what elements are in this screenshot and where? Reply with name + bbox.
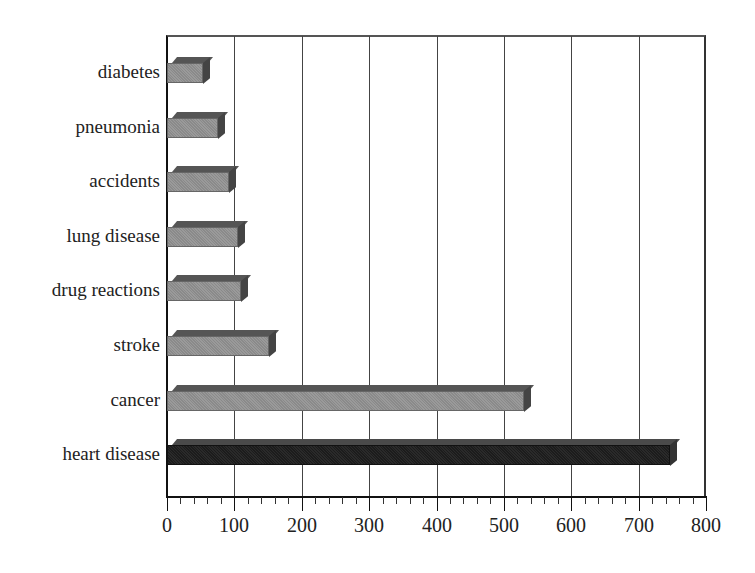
major-tick xyxy=(369,497,370,511)
bar-side-face xyxy=(229,166,236,193)
major-tick xyxy=(639,497,640,511)
minor-tick xyxy=(666,497,667,504)
bar-heart-disease xyxy=(167,439,678,465)
bar-side-face xyxy=(241,276,248,303)
x-tick-label: 300 xyxy=(339,514,399,537)
major-tick xyxy=(437,497,438,511)
bar-front-face xyxy=(167,63,203,83)
minor-tick xyxy=(356,497,357,504)
category-label: lung disease xyxy=(0,224,160,248)
minor-tick xyxy=(463,497,464,504)
x-tick-label: 0 xyxy=(137,514,197,537)
minor-tick xyxy=(544,497,545,504)
bar-side-face xyxy=(203,57,210,84)
minor-tick xyxy=(652,497,653,504)
bar-accidents xyxy=(167,166,237,192)
bar-pneumonia xyxy=(167,112,226,138)
minor-tick xyxy=(477,497,478,504)
category-label: drug reactions xyxy=(0,278,160,302)
minor-tick xyxy=(329,497,330,504)
category-label: cancer xyxy=(0,388,160,412)
bar-front-face xyxy=(167,227,238,247)
bar-front-face xyxy=(167,172,229,192)
x-tick-label: 400 xyxy=(407,514,467,537)
bar-front-face xyxy=(167,336,269,356)
bar-side-face xyxy=(238,221,245,248)
minor-tick xyxy=(396,497,397,504)
major-tick xyxy=(234,497,235,511)
x-tick-label: 600 xyxy=(541,514,601,537)
minor-tick xyxy=(315,497,316,504)
minor-tick xyxy=(598,497,599,504)
gridline xyxy=(234,36,235,497)
minor-tick xyxy=(679,497,680,504)
minor-tick xyxy=(423,497,424,504)
minor-tick xyxy=(288,497,289,504)
minor-tick xyxy=(517,497,518,504)
minor-tick xyxy=(558,497,559,504)
minor-tick xyxy=(693,497,694,504)
category-label: accidents xyxy=(0,169,160,193)
gridline xyxy=(302,36,303,497)
x-tick-label: 800 xyxy=(676,514,736,537)
major-tick xyxy=(706,497,707,511)
gridline xyxy=(504,36,505,497)
bar-side-face xyxy=(524,385,531,412)
minor-tick xyxy=(531,497,532,504)
minor-tick xyxy=(261,497,262,504)
minor-tick xyxy=(207,497,208,504)
category-label: stroke xyxy=(0,333,160,357)
gridline xyxy=(639,36,640,497)
gridline xyxy=(571,36,572,497)
bar-front-face xyxy=(167,118,218,138)
horizontal-bar-chart: diabetespneumoniaaccidentslung diseasedr… xyxy=(0,0,755,573)
minor-tick xyxy=(383,497,384,504)
bar-front-face xyxy=(167,445,670,465)
category-label: pneumonia xyxy=(0,115,160,139)
bar-stroke xyxy=(167,330,277,356)
minor-tick xyxy=(180,497,181,504)
x-tick-label: 700 xyxy=(609,514,669,537)
major-tick xyxy=(504,497,505,511)
minor-tick xyxy=(450,497,451,504)
x-tick-label: 500 xyxy=(474,514,534,537)
minor-tick xyxy=(221,497,222,504)
major-tick xyxy=(167,497,168,511)
minor-tick xyxy=(490,497,491,504)
bar-side-face xyxy=(670,439,677,466)
gridline xyxy=(437,36,438,497)
plot-frame xyxy=(166,35,706,497)
bar-side-face xyxy=(218,112,225,139)
minor-tick xyxy=(194,497,195,504)
bar-drug-reactions xyxy=(167,275,249,301)
bar-diabetes xyxy=(167,57,211,83)
gridline xyxy=(369,36,370,497)
minor-tick xyxy=(585,497,586,504)
x-tick-label: 200 xyxy=(272,514,332,537)
minor-tick xyxy=(410,497,411,504)
major-tick xyxy=(571,497,572,511)
minor-tick xyxy=(612,497,613,504)
bar-front-face xyxy=(167,391,524,411)
category-label: diabetes xyxy=(0,60,160,84)
minor-tick xyxy=(275,497,276,504)
minor-tick xyxy=(342,497,343,504)
bar-cancer xyxy=(167,385,532,411)
bar-front-face xyxy=(167,281,241,301)
major-tick xyxy=(302,497,303,511)
bar-side-face xyxy=(269,330,276,357)
x-tick-label: 100 xyxy=(204,514,264,537)
category-label: heart disease xyxy=(0,442,160,466)
minor-tick xyxy=(248,497,249,504)
bar-lung-disease xyxy=(167,221,246,247)
minor-tick xyxy=(625,497,626,504)
